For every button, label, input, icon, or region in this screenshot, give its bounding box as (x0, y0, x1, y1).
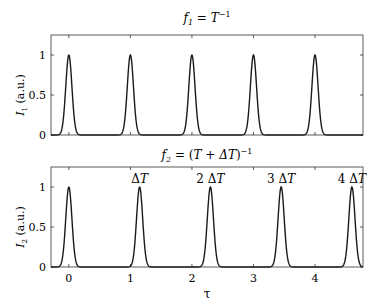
x-tick-label: 0 (65, 272, 72, 285)
y-tick-label: 1 (39, 181, 46, 194)
y-tick-label: 0.5 (29, 89, 47, 102)
x-tick-label: 4 (312, 272, 319, 285)
y-tick-label: 0 (39, 261, 46, 274)
x-tick-label: 2 (188, 272, 195, 285)
top-panel-curve (51, 55, 363, 135)
bottom-panel-title: f2 = (T + ΔT)−1 (161, 147, 253, 164)
peak-annotations: ΔT2 ΔT3 ΔT4 ΔT (131, 172, 367, 186)
x-tick-label: 1 (127, 272, 134, 285)
y-tick-label: 0 (39, 129, 46, 142)
y-tick-label: 0.5 (29, 221, 47, 234)
peak-annotation: 3 ΔT (267, 172, 296, 186)
bottom-panel: f2 = (T + ΔT)−1 I2 (a.u.) 00.5101234 ΔT2… (14, 147, 367, 301)
chart-figure: f1 = T−1 I1 (a.u.) 00.51 f2 = (T + ΔT)−1… (0, 0, 378, 303)
y-tick-label: 1 (39, 49, 46, 62)
peak-annotation: 2 ΔT (196, 172, 225, 186)
top-panel-ylabel: I1 (a.u.) (14, 74, 29, 117)
peak-annotation: ΔT (131, 172, 149, 186)
top-panel-frame (51, 35, 363, 135)
bottom-panel-curve (51, 187, 363, 267)
bottom-panel-ylabel: I2 (a.u.) (14, 206, 29, 249)
top-panel-title: f1 = T−1 (182, 10, 230, 27)
x-tick-label: 3 (250, 272, 257, 285)
bottom-panel-xlabel: τ (204, 287, 211, 301)
top-panel: f1 = T−1 I1 (a.u.) 00.51 (14, 10, 363, 142)
